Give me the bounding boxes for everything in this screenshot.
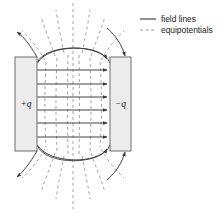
- outer-field-boundary-group: [37, 48, 110, 161]
- equipotential-fringe-top: [22, 31, 45, 60]
- equipotential-fringe-bottom: [22, 149, 45, 178]
- capacitor-field-diagram: +q −q field lines equipotentials: [0, 0, 223, 212]
- equipotential-fringe-top: [41, 17, 55, 56]
- equipotential-fringe-top: [56, 10, 64, 53]
- outer-field-boundary-top: [37, 48, 110, 63]
- fringe-field-line-top-right: [107, 28, 125, 56]
- equipotential-fringe-bottom: [56, 156, 64, 199]
- legend: field lines equipotentials: [140, 14, 213, 35]
- negative-plate-label: −q: [115, 99, 126, 109]
- equipotential-fringe-top: [82, 10, 90, 53]
- equipotential-interior: [100, 62, 102, 147]
- equipotential-interior: [45, 62, 46, 147]
- equipotential-fringe-bottom: [82, 156, 90, 199]
- diagram-canvas: +q −q field lines equipotentials: [0, 0, 223, 212]
- legend-label-field-lines: field lines: [161, 14, 196, 24]
- interior-field-line-group: [37, 70, 107, 137]
- equipotential-fringe-bottom: [41, 153, 55, 192]
- equipotential-fringe-bottom: [91, 153, 105, 192]
- fringe-field-line-top-inner: [38, 48, 107, 62]
- outer-field-boundary-bottom: [37, 145, 110, 161]
- fringe-field-line-bottom-right: [107, 152, 125, 180]
- fringe-field-line-bottom-inner: [38, 146, 107, 160]
- legend-label-equipotentials: equipotentials: [161, 25, 213, 35]
- positive-plate-label: +q: [20, 99, 31, 109]
